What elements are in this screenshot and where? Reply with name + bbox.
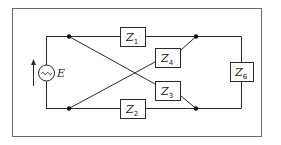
z3-letter: Z — [160, 85, 169, 98]
node-bottom-right — [194, 106, 198, 110]
z6-subscript: 6 — [243, 73, 248, 81]
bottom-branch: Z2 — [69, 100, 241, 119]
node-bottom-left — [67, 106, 71, 110]
z4-subscript: 4 — [169, 59, 174, 67]
source-branch: E — [31, 37, 69, 109]
source-label: E — [56, 67, 65, 80]
node-top-left — [67, 34, 71, 38]
node-top-right — [194, 34, 198, 38]
ac-voltage-source-icon — [39, 65, 55, 81]
arrow-up-icon — [31, 59, 36, 86]
z1-subscript: 1 — [134, 38, 138, 46]
sine-wave-icon — [42, 72, 52, 75]
circuit-diagram: E Z1 Z2 Z3 Z4 Z6 — [0, 0, 281, 145]
z6-letter: Z — [234, 66, 243, 79]
load-branch: Z6 — [231, 37, 254, 109]
top-branch: Z1 — [69, 28, 241, 47]
z1-letter: Z — [125, 31, 134, 44]
z4-letter: Z — [160, 52, 169, 65]
z3-subscript: 3 — [169, 92, 173, 100]
z2-subscript: 2 — [134, 110, 138, 118]
z2-letter: Z — [125, 103, 134, 116]
